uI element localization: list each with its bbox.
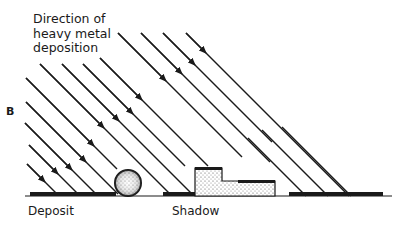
panel-letter: B <box>6 105 14 118</box>
deposit-on-block-top <box>195 167 222 170</box>
caption-line: heavy metal <box>33 27 111 42</box>
deposit-bar-left <box>30 192 116 196</box>
caption-line: deposition <box>33 41 111 56</box>
deposition-arrows <box>25 33 351 196</box>
shadow-casting-diagram: Direction of heavy metal deposition B De… <box>0 0 403 231</box>
block-object <box>195 167 275 196</box>
deposit-bar-right <box>289 192 383 196</box>
deposit-bar-middle <box>163 192 195 196</box>
sphere-object <box>115 170 141 196</box>
shadow-label: Shadow <box>172 204 219 218</box>
deposit-label: Deposit <box>28 204 74 218</box>
deposition-caption: Direction of heavy metal deposition <box>33 12 111 56</box>
deposit-on-block-step <box>238 180 275 183</box>
caption-line: Direction of <box>33 12 111 27</box>
